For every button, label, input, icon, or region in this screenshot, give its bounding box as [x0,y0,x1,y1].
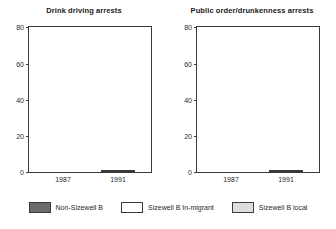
y-tick-right-80: 80 [184,18,197,36]
y-tick-mark [194,100,197,101]
y-tick-left-40: 40 [16,91,29,109]
x-tick-right-1991: 1991 [278,176,294,183]
legend-label: Non-Sizewell B [56,204,103,211]
y-tick-mark [194,172,197,173]
bar-left-1991: 1991 [101,170,135,172]
y-tick-mark [194,64,197,65]
plot-area-left: 0 20 40 60 80 1987 [28,26,152,173]
bar-segment-sizewell-b-local [269,170,303,172]
legend-swatch-icon [232,202,254,213]
bar-segment-sizewell-b-local [101,170,135,172]
legend-item-sizewell-b-local: Sizewell B local [232,202,308,213]
y-tick-right-40: 40 [184,91,197,109]
y-tick-right-60: 60 [184,54,197,72]
y-tick-left-60: 60 [16,54,29,72]
bar-segment-non-sizewell-b [46,172,80,173]
legend-item-sizewell-b-in-migrant: Sizewell B In-migrant [121,202,214,213]
y-tick-mark [26,64,29,65]
chart-panel-public-order: Public order/drunkenness arrests 0 20 40… [168,0,336,192]
bar-segment-non-sizewell-b [214,172,248,173]
legend-label: Sizewell B In-migrant [148,204,214,211]
legend-swatch-icon [29,202,51,213]
figure-stacked-bar-charts: Drink driving arrests 0 20 40 60 80 [0,0,336,229]
y-tick-mark [194,136,197,137]
legend-swatch-icon [121,202,143,213]
bar-right-1991: 1991 [269,170,303,172]
chart-title-right: Public order/drunkenness arrests [168,6,336,16]
y-tick-left-80: 80 [16,18,29,36]
chart-legend: Non-Sizewell B Sizewell B In-migrant Siz… [0,196,336,218]
legend-label: Sizewell B local [259,204,308,211]
y-tick-left-20: 20 [16,127,29,145]
y-tick-mark [26,27,29,28]
y-tick-mark [26,136,29,137]
x-tick-left-1987: 1987 [55,176,71,183]
y-tick-mark [26,100,29,101]
chart-panel-drink-driving: Drink driving arrests 0 20 40 60 80 [0,0,168,192]
x-tick-right-1987: 1987 [223,176,239,183]
legend-item-non-sizewell-b: Non-Sizewell B [29,202,103,213]
y-tick-right-0: 0 [188,163,197,181]
y-tick-right-20: 20 [184,127,197,145]
plot-area-right: 0 20 40 60 80 1987 [196,26,320,173]
y-tick-left-0: 0 [20,163,29,181]
x-tick-left-1991: 1991 [110,176,126,183]
y-tick-mark [26,172,29,173]
chart-title-left: Drink driving arrests [0,6,168,16]
y-tick-mark [194,27,197,28]
